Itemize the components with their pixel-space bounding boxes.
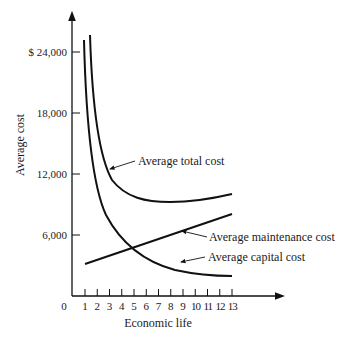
y-tick-label: 18,000 <box>37 107 68 119</box>
chart-canvas: $ 24,000 18,000 12,000 6,000 0 1 2 3 4 5… <box>0 0 345 341</box>
y-tick-label: 12,000 <box>37 168 68 180</box>
annotation-average-capital-cost: Average capital cost <box>181 250 306 264</box>
x-tick-label: 1 <box>82 300 88 312</box>
y-axis-title: Average cost <box>13 113 27 176</box>
x-tick-label: 9 <box>180 300 186 312</box>
x-tick-label: 4 <box>119 300 125 312</box>
x-tick-label: 10 <box>191 300 202 312</box>
x-tick-label: 7 <box>156 300 162 312</box>
x-tick-label: 3 <box>107 300 113 312</box>
annotation-average-total-cost: Average total cost <box>110 154 225 169</box>
x-tick-label: 11 <box>203 300 212 312</box>
y-tick-labels: $ 24,000 18,000 12,000 6,000 <box>29 46 68 241</box>
series-average-total-cost <box>90 35 232 202</box>
svg-text:Average capital cost: Average capital cost <box>208 250 306 264</box>
y-ticks <box>72 52 80 235</box>
x-tick-label: 5 <box>131 300 137 312</box>
y-tick-label: $ 24,000 <box>29 46 68 58</box>
x-tick-label: 12 <box>216 300 226 312</box>
svg-text:Average maintenance cost: Average maintenance cost <box>209 230 335 244</box>
x-tick-label: 6 <box>144 300 150 312</box>
annotation-average-maintenance-cost: Average maintenance cost <box>182 230 335 244</box>
x-tick-label: 0 <box>61 300 67 312</box>
x-tick-labels: 0 1 2 3 4 5 6 7 8 9 10 11 12 13 <box>61 300 238 312</box>
svg-text:Average total cost: Average total cost <box>138 154 225 168</box>
x-axis-title: Economic life <box>124 316 192 330</box>
x-tick-label: 2 <box>95 300 101 312</box>
y-tick-label: 6,000 <box>42 229 67 241</box>
x-tick-label: 13 <box>228 300 239 312</box>
x-ticks <box>85 289 232 296</box>
x-tick-label: 8 <box>168 300 174 312</box>
